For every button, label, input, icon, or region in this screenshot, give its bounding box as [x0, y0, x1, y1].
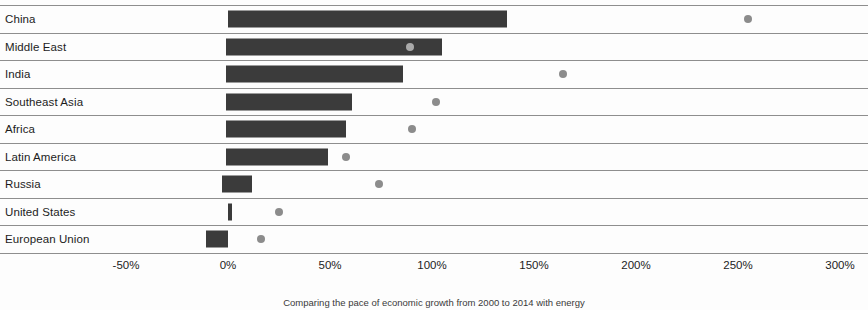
dot-marker	[432, 98, 440, 106]
row-plot	[0, 6, 868, 33]
row-plot	[0, 34, 868, 61]
row-plot	[0, 226, 868, 253]
bar-mark	[206, 231, 228, 248]
bar-mark	[226, 148, 328, 165]
x-tick-label: 250%	[723, 258, 752, 272]
chart-rows: ChinaMiddle EastIndiaSoutheast AsiaAfric…	[0, 5, 868, 253]
dot-marker	[342, 153, 350, 161]
row-plot	[0, 61, 868, 88]
table-row: European Union	[0, 225, 868, 253]
bar-mark	[226, 66, 403, 83]
dot-marker	[559, 70, 567, 78]
chart-caption: Comparing the pace of economic growth fr…	[0, 297, 868, 309]
x-tick-label: 200%	[621, 258, 650, 272]
table-row: Southeast Asia	[0, 88, 868, 116]
dot-marker	[406, 43, 414, 51]
table-row: United States	[0, 198, 868, 226]
table-row: India	[0, 60, 868, 88]
bar-mark	[226, 121, 346, 138]
x-tick-label: 0%	[220, 258, 237, 272]
x-tick-label: 300%	[825, 258, 854, 272]
economic-energy-growth-chart: ChinaMiddle EastIndiaSoutheast AsiaAfric…	[0, 0, 868, 310]
x-tick-label: 100%	[417, 258, 446, 272]
x-tick-label: 50%	[318, 258, 341, 272]
row-plot	[0, 89, 868, 116]
table-row: Africa	[0, 115, 868, 143]
table-row: Latin America	[0, 143, 868, 171]
row-plot	[0, 116, 868, 143]
bar-mark	[228, 203, 232, 220]
dot-marker	[275, 208, 283, 216]
dot-marker	[408, 125, 416, 133]
x-tick-label: -50%	[113, 258, 140, 272]
x-axis-tick-labels: -50%0%50%100%150%200%250%300%	[0, 258, 868, 276]
dot-marker	[375, 180, 383, 188]
x-axis-line	[0, 253, 868, 254]
table-row: China	[0, 5, 868, 33]
bar-mark	[226, 93, 352, 110]
table-row: Russia	[0, 170, 868, 198]
table-row: Middle East	[0, 33, 868, 61]
dot-marker	[257, 235, 265, 243]
x-tick-label: 150%	[519, 258, 548, 272]
dot-marker	[744, 15, 752, 23]
row-plot	[0, 199, 868, 226]
bar-mark	[228, 11, 507, 28]
row-plot	[0, 144, 868, 171]
row-plot	[0, 171, 868, 198]
bar-mark	[222, 176, 253, 193]
